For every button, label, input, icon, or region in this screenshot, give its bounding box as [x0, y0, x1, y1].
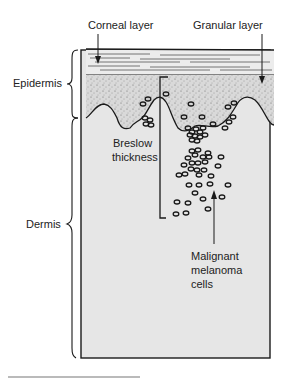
label-granular-layer: Granular layer [193, 19, 263, 32]
label-epidermis: Epidermis [13, 77, 62, 90]
skin-diagram [0, 0, 290, 378]
label-breslow-1: Breslow [113, 137, 152, 150]
label-breslow-2: thickness [112, 151, 158, 164]
label-melanoma-3: cells [191, 278, 213, 291]
epidermis-brace [67, 50, 78, 118]
label-corneal-layer: Corneal layer [88, 19, 153, 32]
label-melanoma-1: Malignant [191, 250, 239, 263]
dermis-brace [67, 118, 78, 358]
label-melanoma-2: melanoma [191, 264, 242, 277]
label-dermis: Dermis [26, 218, 61, 231]
